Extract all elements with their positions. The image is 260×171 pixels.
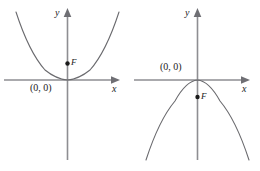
focus-point xyxy=(195,95,199,99)
x-axis-label: x xyxy=(112,84,116,94)
y-axis-label: y xyxy=(185,8,189,18)
panel-downward-parabola: (0, 0) F x y xyxy=(130,0,260,171)
origin-label: (0, 0) xyxy=(30,83,52,93)
upward-parabola-plot xyxy=(0,0,130,171)
parabola-figure: F (0, 0) x y (0, 0) F x y xyxy=(0,0,260,171)
panel-upward-parabola: F (0, 0) x y xyxy=(0,0,130,171)
focus-label: F xyxy=(71,58,77,67)
origin-label: (0, 0) xyxy=(160,62,182,72)
y-axis-label: y xyxy=(55,8,59,18)
x-axis-label: x xyxy=(242,84,246,94)
y-axis-arrowhead xyxy=(64,8,72,17)
y-axis-arrowhead xyxy=(194,8,202,17)
downward-parabola-plot xyxy=(130,0,260,171)
focus-point xyxy=(65,61,69,65)
focus-label: F xyxy=(201,92,207,101)
